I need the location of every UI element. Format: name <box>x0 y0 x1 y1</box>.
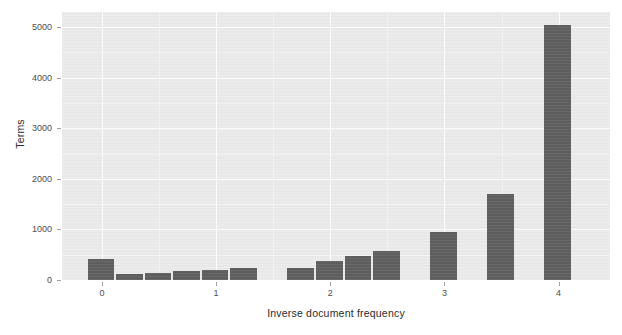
gridline-horizontal-major <box>62 179 610 180</box>
gridline-vertical-major <box>330 12 331 280</box>
gridline-vertical-minor <box>159 12 160 280</box>
x-axis-title: Inverse document frequency <box>62 307 610 319</box>
y-tick-label: 2000 <box>0 173 52 185</box>
plot-panel <box>62 12 610 280</box>
y-tick-mark <box>57 78 61 79</box>
y-tick-mark <box>57 229 61 230</box>
x-tick-mark <box>444 282 445 286</box>
y-tick-label: 1000 <box>0 223 52 235</box>
bar <box>487 194 514 280</box>
gridline-horizontal-minor <box>62 154 610 155</box>
bar <box>202 270 229 280</box>
y-tick-label: 5000 <box>0 21 52 33</box>
y-axis-ticks: 010002000300040005000 <box>0 0 56 335</box>
y-tick-mark <box>57 280 61 281</box>
y-tick-label: 0 <box>0 274 52 286</box>
bar <box>230 268 257 280</box>
x-tick-mark <box>330 282 331 286</box>
gridline-vertical-major <box>216 12 217 280</box>
x-tick-label: 0 <box>87 288 117 298</box>
gridline-horizontal-minor <box>62 204 610 205</box>
gridline-horizontal-minor <box>62 103 610 104</box>
gridline-horizontal-major <box>62 229 610 230</box>
bar <box>373 251 400 280</box>
y-tick-mark <box>57 128 61 129</box>
x-tick-mark <box>216 282 217 286</box>
bar <box>345 256 372 280</box>
gridline-horizontal-minor <box>62 255 610 256</box>
gridline-vertical-minor <box>387 12 388 280</box>
bar <box>287 268 314 280</box>
gridline-horizontal-major <box>62 128 610 129</box>
x-tick-label: 3 <box>429 288 459 298</box>
y-tick-mark <box>57 179 61 180</box>
gridline-horizontal-major <box>62 27 610 28</box>
gridline-horizontal-major <box>62 78 610 79</box>
bar <box>173 271 200 280</box>
bar <box>145 273 172 280</box>
x-tick-label: 1 <box>201 288 231 298</box>
bar <box>316 261 343 280</box>
y-tick-label: 4000 <box>0 72 52 84</box>
bar <box>88 259 115 280</box>
gridline-vertical-major <box>102 12 103 280</box>
gridline-vertical-minor <box>273 12 274 280</box>
gridline-horizontal-minor <box>62 52 610 53</box>
x-tick-mark <box>559 282 560 286</box>
x-tick-mark <box>102 282 103 286</box>
y-tick-label: 3000 <box>0 122 52 134</box>
bar <box>544 25 571 280</box>
x-tick-label: 4 <box>544 288 574 298</box>
x-tick-label: 2 <box>315 288 345 298</box>
chart-container: Terms 010002000300040005000 01234 Invers… <box>0 0 622 335</box>
bar <box>116 274 143 280</box>
bar <box>430 232 457 280</box>
y-tick-mark <box>57 27 61 28</box>
